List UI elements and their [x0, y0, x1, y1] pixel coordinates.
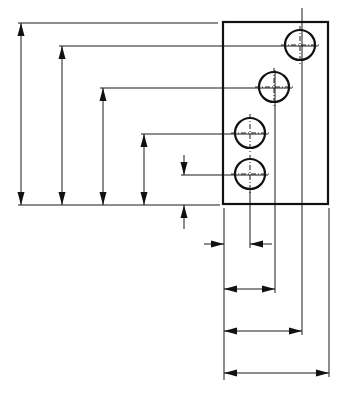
technical-drawing [0, 0, 346, 394]
arrowhead [224, 328, 237, 335]
arrowhead [289, 328, 302, 335]
arrowhead [18, 192, 25, 205]
arrowhead [211, 241, 224, 248]
hole-circle [285, 30, 315, 60]
arrowhead [181, 162, 188, 175]
arrowhead [224, 286, 237, 293]
hole-circle [235, 118, 265, 148]
arrowhead [59, 192, 66, 205]
arrowhead [262, 286, 275, 293]
vertical-dimensions [18, 23, 188, 229]
horizontal-dimensions [204, 241, 329, 377]
arrowhead [181, 205, 188, 218]
arrowhead [100, 88, 107, 101]
hole-circle [235, 159, 265, 189]
arrowhead [141, 192, 148, 205]
drawing-canvas [0, 0, 346, 394]
arrowhead [141, 134, 148, 147]
arrowhead [316, 370, 329, 377]
hole-circle [259, 72, 289, 102]
arrowhead [250, 241, 263, 248]
arrowhead [100, 192, 107, 205]
arrowhead [224, 370, 237, 377]
arrowhead [59, 46, 66, 59]
arrowhead [18, 23, 25, 36]
